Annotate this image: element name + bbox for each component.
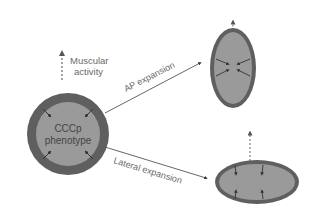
cccp-label-line1: CCCp	[54, 123, 82, 134]
cccp-phenotype-circle	[27, 93, 109, 175]
ap-expansion-label: AP expansion	[122, 60, 176, 94]
cccp-label-line2: phenotype	[45, 135, 92, 146]
lateral-expansion-ellipse	[215, 133, 299, 204]
muscular-activity-label-line1: Muscular	[70, 55, 109, 66]
muscular-activity-label-line2: activity	[74, 66, 103, 77]
diagram-canvas: Muscular activity CCCp phenotype AP expa…	[0, 0, 309, 220]
ap-expansion-ellipse	[210, 22, 256, 108]
